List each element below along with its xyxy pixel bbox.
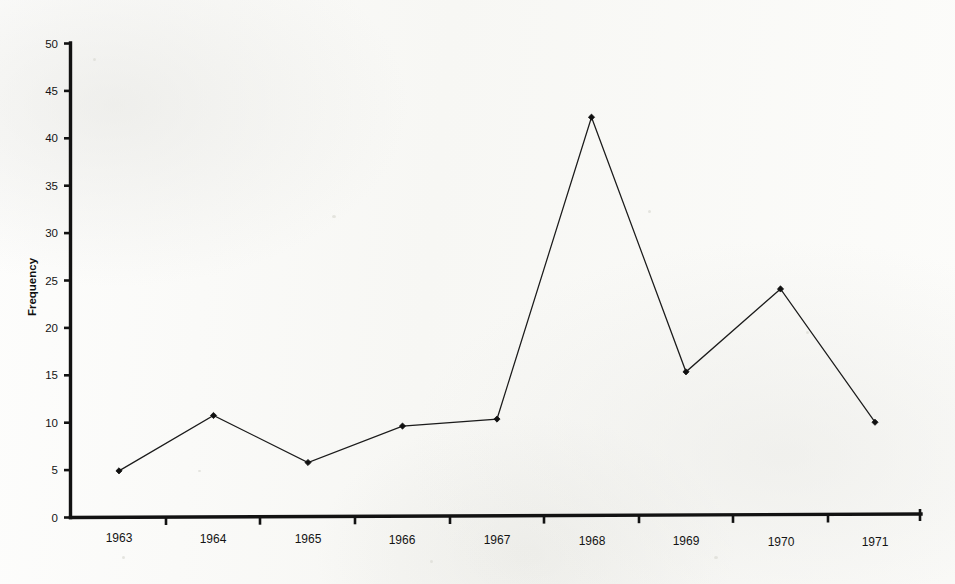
x-tick-label-1966: 1966 <box>389 533 416 547</box>
data-point-1965 <box>305 459 311 465</box>
x-tick-label-1970: 1970 <box>768 535 795 549</box>
data-point-1963 <box>116 468 122 474</box>
chart-page: 0 5 10 15 20 25 30 35 40 45 50 Frequency <box>0 0 955 584</box>
x-axis-tick-labels: 1963 1964 1965 1966 1967 1968 1969 1970 … <box>106 531 889 549</box>
x-tick-label-1963: 1963 <box>106 531 133 545</box>
data-point-1967 <box>494 416 500 422</box>
x-tick-label-1971: 1971 <box>862 535 889 549</box>
x-tick-label-1968: 1968 <box>579 534 606 548</box>
y-tick-label-40: 40 <box>45 132 58 144</box>
line-chart: 0 5 10 15 20 25 30 35 40 45 50 Frequency <box>0 0 955 584</box>
x-tick-label-1964: 1964 <box>200 532 227 546</box>
data-point-1964 <box>210 412 216 418</box>
data-point-1966 <box>399 423 405 429</box>
y-axis-title: Frequency <box>26 257 38 316</box>
x-tick-label-1969: 1969 <box>673 534 700 548</box>
y-tick-label-30: 30 <box>45 227 58 239</box>
x-tick-label-1965: 1965 <box>295 532 322 546</box>
y-tick-label-0: 0 <box>52 512 58 524</box>
y-tick-label-15: 15 <box>45 369 58 381</box>
y-tick-label-50: 50 <box>45 38 58 50</box>
y-axis-tick-labels: 0 5 10 15 20 25 30 35 40 45 50 <box>45 38 58 524</box>
y-tick-label-10: 10 <box>45 417 58 429</box>
y-tick-label-20: 20 <box>45 322 58 334</box>
x-axis-line <box>71 514 922 518</box>
y-tick-label-45: 45 <box>45 85 58 97</box>
data-series-markers <box>116 114 878 474</box>
x-tick-label-1967: 1967 <box>484 533 511 547</box>
y-tick-label-25: 25 <box>45 275 58 287</box>
y-tick-label-5: 5 <box>52 464 58 476</box>
y-tick-label-35: 35 <box>45 180 58 192</box>
data-point-1968 <box>588 114 594 120</box>
